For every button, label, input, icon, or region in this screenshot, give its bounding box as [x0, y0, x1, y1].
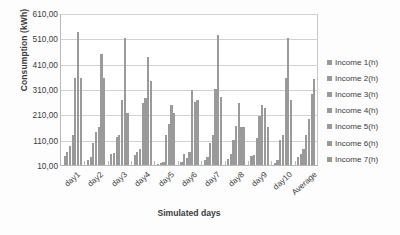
x-axis-tick-labels: day1day2day3day4day5day6day7day8day9day1… — [60, 168, 318, 202]
x-tick-label: day2 — [86, 170, 105, 189]
legend-swatch-icon — [327, 76, 332, 81]
bar[interactable] — [243, 127, 245, 165]
bar[interactable] — [126, 113, 128, 165]
bar[interactable] — [313, 79, 315, 165]
legend-item[interactable]: Income 4(h) — [327, 103, 399, 119]
bar-group — [154, 14, 177, 165]
bar-group — [108, 14, 131, 165]
legend-item[interactable]: Income 7(h) — [327, 151, 399, 167]
bar-group — [201, 14, 224, 165]
bar-groups — [61, 14, 318, 165]
bar-group — [271, 14, 294, 165]
x-label-cell: day1 — [60, 168, 83, 202]
y-tick-label: 310,00 — [14, 85, 58, 95]
y-tick-label: 510,00 — [14, 34, 58, 44]
legend-label: Income 3(h) — [335, 90, 378, 99]
legend-label: Income 7(h) — [335, 155, 378, 164]
x-label-cell: day5 — [154, 168, 177, 202]
bar-chart: Consumption (kWh) 10,00110,00210,00310,0… — [0, 0, 400, 235]
x-label-cell: day4 — [130, 168, 153, 202]
legend-swatch-icon — [327, 92, 332, 97]
legend-label: Income 4(h) — [335, 106, 378, 115]
legend-item[interactable]: Income 5(h) — [327, 119, 399, 135]
legend-label: Income 5(h) — [335, 122, 378, 131]
bar-group — [178, 14, 201, 165]
bar[interactable] — [173, 113, 175, 165]
bar-group — [131, 14, 154, 165]
bar-group — [295, 14, 318, 165]
x-tick-label: day6 — [180, 170, 199, 189]
y-tick-label: 110,00 — [14, 136, 58, 146]
legend-item[interactable]: Income 2(h) — [327, 70, 399, 86]
bar[interactable] — [80, 78, 82, 165]
bar-group — [84, 14, 107, 165]
x-label-cell: day9 — [248, 168, 271, 202]
x-label-cell: day6 — [177, 168, 200, 202]
legend-swatch-icon — [327, 141, 332, 146]
x-label-cell: Average — [295, 168, 318, 202]
legend-swatch-icon — [327, 108, 332, 113]
y-tick-label: 410,00 — [14, 60, 58, 70]
bar[interactable] — [267, 127, 269, 165]
bar[interactable] — [103, 78, 105, 165]
bar[interactable] — [150, 81, 152, 165]
bar[interactable] — [196, 100, 198, 165]
y-tick-label: 610,00 — [14, 9, 58, 19]
x-tick-label: day9 — [250, 170, 269, 189]
plot-area — [60, 14, 318, 166]
x-label-cell: day2 — [83, 168, 106, 202]
legend-swatch-icon — [327, 60, 332, 65]
legend-swatch-icon — [327, 157, 332, 162]
x-tick-label: day7 — [203, 170, 222, 189]
x-label-cell: day7 — [201, 168, 224, 202]
legend-item[interactable]: Income 6(h) — [327, 135, 399, 151]
x-tick-label: day5 — [156, 170, 175, 189]
chart-legend: Income 1(h)Income 2(h)Income 3(h)Income … — [327, 54, 399, 167]
x-label-cell: day8 — [224, 168, 247, 202]
x-label-cell: day10 — [271, 168, 294, 202]
bar[interactable] — [220, 97, 222, 165]
legend-label: Income 6(h) — [335, 139, 378, 148]
bar-group — [225, 14, 248, 165]
x-tick-label: day8 — [227, 170, 246, 189]
legend-swatch-icon — [327, 124, 332, 129]
legend-item[interactable]: Income 1(h) — [327, 54, 399, 70]
x-tick-label: day3 — [109, 170, 128, 189]
x-tick-label: day1 — [62, 170, 81, 189]
y-axis-tick-labels: 10,00110,00210,00310,00410,00510,00610,0… — [14, 14, 58, 166]
bar-group — [248, 14, 271, 165]
x-tick-label: Average — [290, 170, 319, 197]
bar[interactable] — [290, 100, 292, 165]
x-axis-title: Simulated days — [60, 208, 318, 218]
y-tick-label: 10,00 — [14, 161, 58, 171]
y-tick-label: 210,00 — [14, 110, 58, 120]
legend-label: Income 1(h) — [335, 58, 378, 67]
legend-label: Income 2(h) — [335, 74, 378, 83]
bar-group — [61, 14, 84, 165]
legend-item[interactable]: Income 3(h) — [327, 86, 399, 102]
x-label-cell: day3 — [107, 168, 130, 202]
x-tick-label: day4 — [133, 170, 152, 189]
